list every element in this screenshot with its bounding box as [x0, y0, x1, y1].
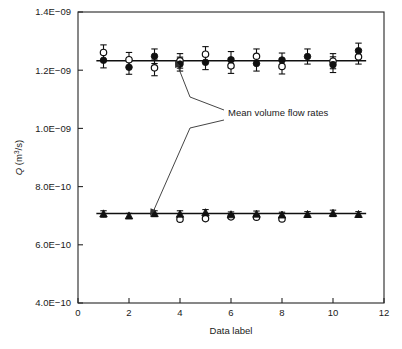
y-axis-title-unit-open: (m [13, 154, 24, 168]
upper-filled-circles-filled-circle [202, 59, 209, 66]
upper-filled-circles-filled-circle [355, 47, 362, 54]
upper-open-circles-open-circle [202, 51, 208, 57]
y-axis-title-unit-close: /s) [13, 140, 24, 151]
x-tick-label: 2 [126, 307, 131, 318]
y-axis-title: Q (m3/s) [13, 140, 25, 175]
scatter-plot-canvas: 4.0E−106.0E−108.0E−101.0E−091.2E−091.4E−… [0, 0, 402, 349]
x-tick-label: 12 [379, 307, 390, 318]
upper-filled-circles-filled-circle [126, 64, 133, 71]
upper-open-circles-open-circle [279, 63, 285, 69]
x-tick-label: 0 [75, 307, 80, 318]
upper-filled-circles-filled-circle [228, 56, 235, 63]
y-tick-label: 4.0E−10 [35, 297, 71, 308]
upper-open-circles-open-circle [355, 54, 361, 60]
y-tick-label: 1.2E−09 [35, 65, 71, 76]
chart-figure: 4.0E−106.0E−108.0E−101.0E−091.2E−091.4E−… [0, 0, 402, 349]
y-tick-label: 8.0E−10 [35, 181, 71, 192]
upper-filled-circles-filled-circle [279, 57, 286, 64]
upper-filled-circles-filled-circle [253, 60, 260, 67]
x-tick-label: 10 [328, 307, 339, 318]
y-tick-label: 1.4E−09 [35, 6, 71, 17]
upper-open-circles-open-circle [228, 63, 234, 69]
annotation-mean-volume-flow-rates: Mean volume flow rates [228, 107, 329, 118]
x-tick-label: 6 [228, 307, 233, 318]
x-axis-title: Data label [210, 325, 253, 336]
upper-filled-circles-filled-circle [330, 61, 337, 68]
upper-filled-circles-filled-circle [100, 57, 107, 64]
lower-open-markers-open-circle [202, 215, 208, 221]
upper-open-circles-open-circle [151, 65, 157, 71]
y-tick-label: 1.0E−09 [35, 123, 71, 134]
y-tick-label: 6.0E−10 [35, 239, 71, 250]
upper-filled-circles-filled-circle [151, 53, 158, 60]
upper-open-circles-open-circle [100, 49, 106, 55]
upper-open-circles-open-circle [253, 53, 259, 59]
x-tick-label: 8 [279, 307, 284, 318]
upper-filled-circles-filled-circle [304, 53, 311, 60]
x-tick-label: 4 [177, 307, 182, 318]
upper-open-circles-open-circle [126, 57, 132, 63]
